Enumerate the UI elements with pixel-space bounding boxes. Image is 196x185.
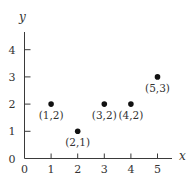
y-tick-label: 0: [9, 153, 16, 166]
x-tick-label: 2: [74, 163, 81, 176]
y-tick-label: 4: [9, 44, 16, 57]
y-tick-label: 3: [9, 71, 16, 84]
data-point-label: (4,2): [118, 109, 143, 121]
data-point-label: (5,3): [145, 82, 170, 94]
y-axis-label: y: [18, 10, 26, 24]
data-point: [128, 101, 134, 107]
data-point: [48, 101, 54, 107]
x-tick-label: 3: [101, 163, 108, 176]
x-tick-label: 1: [48, 163, 55, 176]
data-point-label: (2,1): [65, 136, 90, 148]
y-tick-label: 2: [9, 98, 16, 111]
scatter-chart: y x 012345 01234 (1,2)(2,1)(3,2)(4,2)(5,…: [0, 0, 196, 185]
data-points: (1,2)(2,1)(3,2)(4,2)(5,3): [39, 74, 170, 148]
x-tick-label: 5: [154, 163, 161, 176]
data-point: [75, 129, 81, 135]
data-point-label: (1,2): [39, 109, 64, 121]
data-point: [155, 74, 161, 80]
x-tick-label: 4: [127, 163, 134, 176]
y-ticks: 01234: [9, 44, 31, 166]
x-axis-label: x: [179, 149, 186, 163]
y-tick-label: 1: [9, 125, 16, 138]
data-point-label: (3,2): [92, 109, 117, 121]
x-ticks: 012345: [21, 154, 161, 176]
data-point: [102, 101, 108, 107]
x-tick-label: 0: [21, 163, 28, 176]
